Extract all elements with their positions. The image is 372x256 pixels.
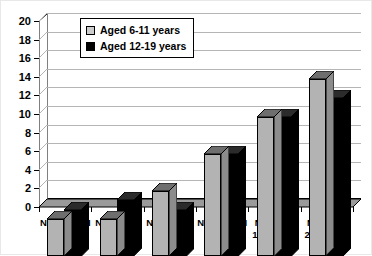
- gridline-depth: [39, 50, 48, 59]
- y-tick-label: 0: [5, 202, 31, 212]
- x-tick-mark: [196, 207, 197, 212]
- bar-top-3d: [309, 71, 334, 79]
- gridline-depth: [39, 32, 48, 41]
- y-tick-mark: [34, 170, 39, 171]
- bar-face: [100, 219, 117, 256]
- gridline-depth: [39, 13, 48, 22]
- bar[interactable]: [257, 117, 274, 256]
- bar-side-3d: [221, 146, 229, 256]
- bar-side-3d: [186, 202, 194, 256]
- bar-chart: 02468101214161820 NHES II &III1963-70NHA…: [1, 1, 372, 256]
- y-tick-mark: [34, 188, 39, 189]
- x-tick-mark: [144, 207, 145, 212]
- bar[interactable]: [152, 191, 169, 256]
- y-tick-label: 14: [5, 72, 31, 82]
- bar-face: [152, 191, 169, 256]
- x-tick-mark: [301, 207, 302, 212]
- y-tick-mark: [34, 21, 39, 22]
- gridline-depth: [39, 69, 48, 78]
- bar-side-3d: [291, 109, 299, 256]
- bar-side-3d: [134, 192, 142, 256]
- legend-label: Aged 6-11 years: [100, 24, 180, 36]
- bar-face: [47, 219, 64, 256]
- y-tick-label: 10: [5, 109, 31, 119]
- gridline-depth: [39, 125, 48, 134]
- y-tick-label: 4: [5, 165, 31, 175]
- bar[interactable]: [204, 154, 221, 256]
- bar-face: [257, 117, 274, 256]
- bar[interactable]: [47, 219, 64, 256]
- gridline: [47, 13, 361, 14]
- y-tick-mark: [34, 40, 39, 41]
- y-tick-label: 20: [5, 16, 31, 26]
- bar-top-3d: [152, 183, 177, 191]
- y-tick-mark: [34, 77, 39, 78]
- gridline-depth: [39, 180, 48, 189]
- bar-side-3d: [274, 109, 282, 256]
- bar-top-3d: [47, 211, 72, 219]
- bar-top-3d: [257, 109, 282, 117]
- bar-top-3d: [100, 211, 125, 219]
- bar-face: [204, 154, 221, 256]
- bar-side-3d: [238, 146, 246, 256]
- x-tick-mark: [353, 207, 354, 212]
- y-tick-label: 6: [5, 146, 31, 156]
- bar-side-3d: [169, 183, 177, 256]
- y-tick-mark: [34, 95, 39, 96]
- gridline-depth: [39, 162, 48, 171]
- legend-item[interactable]: Aged 6-11 years: [86, 22, 186, 38]
- legend-label: Aged 12-19 years: [100, 40, 186, 52]
- bar-side-3d: [81, 202, 89, 256]
- legend-swatch-dark: [86, 42, 95, 51]
- bar[interactable]: [100, 219, 117, 256]
- bar-face: [309, 79, 326, 256]
- legend: Aged 6-11 yearsAged 12-19 years: [80, 18, 194, 58]
- y-tick-label: 12: [5, 90, 31, 100]
- y-tick-mark: [34, 114, 39, 115]
- bar-top-3d: [64, 202, 89, 210]
- gridline: [47, 69, 361, 70]
- y-tick-label: 18: [5, 35, 31, 45]
- y-tick-mark: [34, 151, 39, 152]
- x-tick-mark: [248, 207, 249, 212]
- gridline-depth: [39, 87, 48, 96]
- x-tick-mark: [91, 207, 92, 212]
- y-tick-label: 8: [5, 128, 31, 138]
- legend-swatch-light: [86, 26, 95, 35]
- legend-item[interactable]: Aged 12-19 years: [86, 38, 186, 54]
- y-tick-mark: [34, 133, 39, 134]
- gridline-depth: [39, 106, 48, 115]
- gridline-depth: [39, 143, 48, 152]
- y-tick-mark: [34, 58, 39, 59]
- bar-side-3d: [326, 71, 334, 256]
- x-tick-mark: [39, 207, 40, 212]
- y-tick-label: 16: [5, 53, 31, 63]
- bar-top-3d: [117, 192, 142, 200]
- y-tick-label: 2: [5, 183, 31, 193]
- bar[interactable]: [309, 79, 326, 256]
- bar-top-3d: [204, 146, 229, 154]
